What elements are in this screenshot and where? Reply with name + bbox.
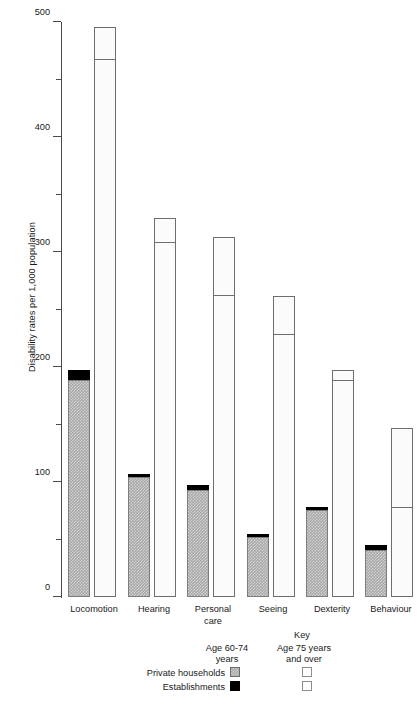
key-row-label-private-households: Private households [80, 668, 225, 678]
key-swatch-establishments-age-75-over [302, 681, 312, 691]
key-title: Key [282, 630, 322, 640]
key-swatch-households-age-75-over [302, 667, 312, 677]
key-swatch-households-age-60-74 [230, 667, 240, 677]
key-column-header-age-60-74: Age 60-74 years [196, 643, 258, 664]
key-column-header-age-75-over: Age 75 years and over [268, 643, 340, 664]
x-axis-category-label: Behaviour [356, 604, 417, 616]
key-row-label-establishments: Establishments [80, 682, 225, 692]
key-swatch-establishments-age-60-74 [230, 681, 240, 691]
